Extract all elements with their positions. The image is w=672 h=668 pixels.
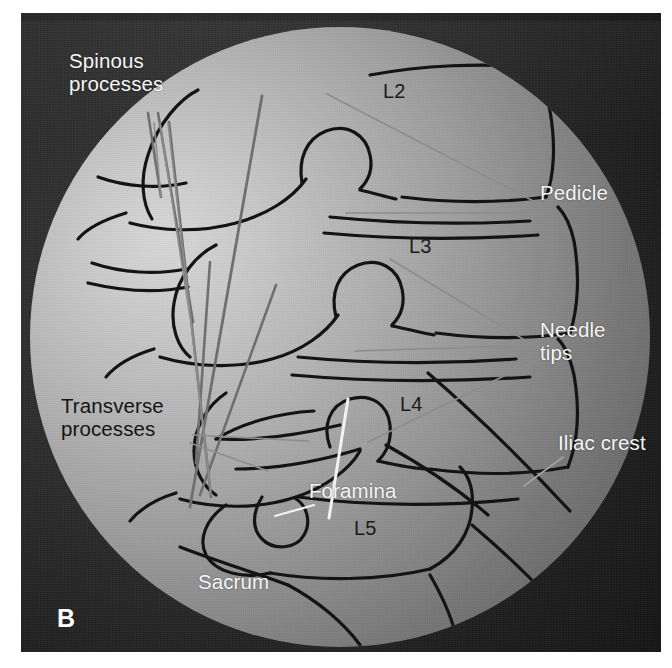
leader-line-spinous xyxy=(168,123,211,495)
leader-line-foramina xyxy=(275,505,314,516)
label-foramina: Foramina xyxy=(309,479,396,502)
label-needle-tips: Needle tips xyxy=(540,318,606,364)
label-iliac-crest: Iliac crest xyxy=(558,431,646,454)
label-transverse-processes: Transverse processes xyxy=(61,394,164,440)
panel-letter-b: B xyxy=(57,604,76,633)
figure-root: Spinous processes Transverse processes P… xyxy=(0,0,672,668)
label-sacrum: Sacrum xyxy=(198,570,269,593)
label-pedicle: Pedicle xyxy=(540,181,608,204)
label-level-l2: L2 xyxy=(383,80,405,103)
leader-line-pedicle xyxy=(327,94,543,206)
leader-line-spinous xyxy=(160,123,190,317)
label-level-l4: L4 xyxy=(400,393,422,416)
leader-line-iliac-crest xyxy=(524,457,563,486)
leader-line-needle-tips xyxy=(390,259,543,351)
label-level-l5: L5 xyxy=(354,517,376,540)
label-spinous-processes: Spinous processes xyxy=(69,49,163,95)
leader-line-needle-tips xyxy=(368,357,543,442)
label-level-l3: L3 xyxy=(409,235,431,258)
needle-shaft xyxy=(190,96,262,507)
leader-line-transverse xyxy=(193,435,308,441)
radiograph-plate: Spinous processes Transverse processes P… xyxy=(21,13,661,652)
leader-line-transverse xyxy=(190,443,268,471)
leader-line-needle-tips xyxy=(355,345,543,351)
